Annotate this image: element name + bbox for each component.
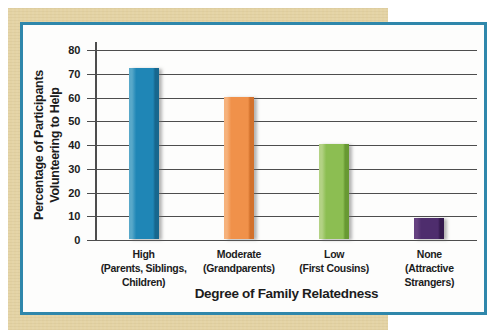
category-sublabel-low: (First Cousins) xyxy=(287,261,382,275)
bar-moderate xyxy=(224,97,254,240)
category-name-low: Low xyxy=(287,247,382,261)
category-name-moderate: Moderate xyxy=(191,247,286,261)
bar-low xyxy=(319,144,349,239)
y-axis-title-line1: Percentage of Participants xyxy=(31,70,47,220)
bar-high xyxy=(129,68,159,239)
gridline-0 xyxy=(96,240,477,241)
y-tick-label-50: 50 xyxy=(48,115,80,127)
y-tick-label-40: 40 xyxy=(48,139,80,151)
category-name-none: None xyxy=(382,247,477,261)
category-label-moderate: Moderate(Grandparents) xyxy=(191,247,286,290)
y-tick-label-80: 80 xyxy=(48,44,80,56)
category-label-low: Low(First Cousins) xyxy=(287,247,382,290)
gridline-80 xyxy=(96,50,477,51)
y-tick-mark-0 xyxy=(87,240,96,241)
category-name-high: High xyxy=(96,247,191,261)
category-axis: High(Parents, Siblings, Children)Moderat… xyxy=(96,247,477,290)
chart-panel: Percentage of Participants Volunteering … xyxy=(20,22,487,315)
y-tick-label-20: 20 xyxy=(48,187,80,199)
x-axis-title: Degree of Family Relatedness xyxy=(96,286,477,301)
category-label-high: High(Parents, Siblings, Children) xyxy=(96,247,191,290)
category-sublabel-moderate: (Grandparents) xyxy=(191,261,286,275)
y-tick-label-10: 10 xyxy=(48,210,80,222)
category-label-none: None(Attractive Strangers) xyxy=(382,247,477,290)
bar-none xyxy=(414,218,444,239)
y-tick-label-60: 60 xyxy=(48,92,80,104)
y-tick-label-30: 30 xyxy=(48,163,80,175)
y-tick-label-70: 70 xyxy=(48,68,80,80)
y-axis-line xyxy=(95,42,97,240)
plot-area: 01020304050607080 xyxy=(96,50,477,240)
y-tick-label-0: 0 xyxy=(48,234,80,246)
